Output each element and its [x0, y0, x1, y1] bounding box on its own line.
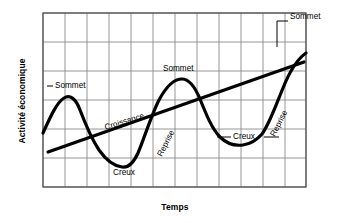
label-creux-1: Creux: [113, 169, 135, 177]
label-sommet-3: Sommet: [290, 13, 320, 21]
business-cycle-figure: Activité économique Temps Sommet Creux C…: [0, 0, 338, 223]
x-axis-label: Temps: [43, 202, 307, 212]
chart-grid: [43, 13, 306, 187]
long-run-trend-line: [48, 62, 304, 152]
y-axis-label: Activité économique: [17, 41, 27, 161]
label-sommet-2: Sommet: [163, 65, 193, 73]
label-creux-2: Creux: [233, 133, 255, 141]
label-sommet-1: Sommet: [55, 82, 85, 90]
